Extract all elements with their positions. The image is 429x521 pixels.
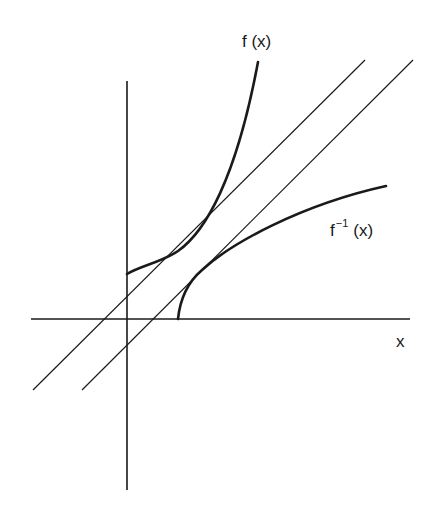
diagram-figure xyxy=(0,0,429,521)
f-inverse-curve xyxy=(178,186,386,319)
x-axis-label: x xyxy=(396,333,405,350)
f-inverse-label-base: f xyxy=(330,221,335,240)
f-inverse-label: f−1(x) xyxy=(330,222,373,239)
f-label: f (x) xyxy=(242,33,271,50)
f-inverse-label-superscript: −1 xyxy=(336,217,349,229)
f-inverse-label-argument: (x) xyxy=(353,221,373,240)
tangent-line-upper xyxy=(33,60,365,390)
